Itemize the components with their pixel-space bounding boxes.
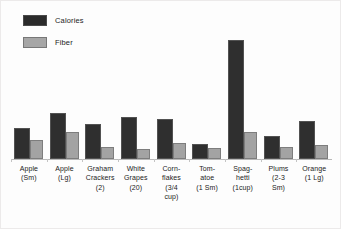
bar-fiber xyxy=(101,147,114,159)
x-axis-label: Apple(Lg) xyxy=(47,164,83,183)
legend-label-calories: Calories xyxy=(55,17,84,25)
x-axis-label-line: (1cup) xyxy=(225,183,261,192)
x-axis-label-line: (2) xyxy=(82,183,118,192)
x-axis-label-line: (2-3 xyxy=(261,173,297,182)
bar-fiber xyxy=(208,148,221,159)
bar-group xyxy=(299,35,328,159)
x-axis-tick xyxy=(47,159,48,162)
x-axis-tick xyxy=(261,159,262,162)
x-axis-label-line: Orange xyxy=(296,164,332,173)
bar-group xyxy=(85,35,114,159)
x-axis-label-line: Spag- xyxy=(225,164,261,173)
x-axis-label: WhiteGrapes(20) xyxy=(118,164,154,192)
bar-calories xyxy=(299,121,315,159)
bar-fiber xyxy=(244,132,257,159)
x-axis-label-line: atoe xyxy=(189,173,225,182)
x-axis-label-line: Apple xyxy=(47,164,83,173)
x-axis-label-line: Graham xyxy=(82,164,118,173)
x-axis-label-line: flakes xyxy=(154,173,190,182)
bar-group xyxy=(121,35,150,159)
bar-calories xyxy=(50,113,66,159)
bar-fiber xyxy=(173,143,186,159)
bar-calories xyxy=(192,144,208,159)
x-axis-labels: Apple(Sm)Apple(Lg)GrahamCrackers(2)White… xyxy=(11,164,332,226)
x-axis-label: Apple(Sm) xyxy=(11,164,47,183)
bar-fiber xyxy=(30,140,43,159)
x-axis-label-line: Apple xyxy=(11,164,47,173)
bar-group xyxy=(228,35,257,159)
bar-group xyxy=(157,35,186,159)
x-axis-label: Spag-hetti(1cup) xyxy=(225,164,261,192)
x-axis-label-line: Crackers xyxy=(82,173,118,182)
bar-calories xyxy=(157,119,173,159)
x-axis-tick xyxy=(296,159,297,162)
bar-fiber xyxy=(66,132,79,159)
bar-fiber xyxy=(137,149,150,159)
bar-calories xyxy=(85,124,101,159)
bar-group xyxy=(264,35,293,159)
legend-item-calories: Calories xyxy=(23,14,143,27)
legend-swatch-calories-icon xyxy=(23,15,47,26)
x-axis-label: Tom-atoe(1 Sm) xyxy=(189,164,225,192)
x-axis-label: Plums(2-3Sm) xyxy=(261,164,297,192)
plot-area xyxy=(11,35,332,160)
x-axis-tick xyxy=(11,159,12,162)
x-axis-tick xyxy=(82,159,83,162)
bar-fiber xyxy=(280,147,293,159)
x-axis-label-line: Plums xyxy=(261,164,297,173)
x-axis-label-line: cup) xyxy=(154,192,190,201)
bar-chart: Calories Fiber Apple(Sm)Apple(Lg)GrahamC… xyxy=(0,0,341,229)
x-axis-label-line: (Lg) xyxy=(47,173,83,182)
x-axis-tick xyxy=(118,159,119,162)
x-axis-label: Orange(1 Lg) xyxy=(296,164,332,183)
x-axis-label-line: (Sm) xyxy=(11,173,47,182)
bar-calories xyxy=(228,40,244,159)
x-axis-label-line: (3/4 xyxy=(154,183,190,192)
x-axis-label-line: Grapes xyxy=(118,173,154,182)
bar-group xyxy=(50,35,79,159)
x-axis-baseline xyxy=(11,159,332,160)
x-axis-label: Corn-flakes(3/4cup) xyxy=(154,164,190,202)
x-axis-label-line: (1 Sm) xyxy=(189,183,225,192)
x-axis-label-line: White xyxy=(118,164,154,173)
x-axis-label: GrahamCrackers(2) xyxy=(82,164,118,192)
x-axis-tick xyxy=(154,159,155,162)
x-axis-label-line: Tom- xyxy=(189,164,225,173)
x-axis-label-line: hetti xyxy=(225,173,261,182)
x-axis-label-line: (20) xyxy=(118,183,154,192)
bar-calories xyxy=(264,136,280,159)
bar-group xyxy=(14,35,43,159)
x-axis-tick xyxy=(225,159,226,162)
x-axis-label-line: (1 Lg) xyxy=(296,173,332,182)
x-axis-label-line: Sm) xyxy=(261,183,297,192)
bar-calories xyxy=(121,117,137,159)
bar-fiber xyxy=(315,145,328,159)
x-axis-label-line: Corn- xyxy=(154,164,190,173)
bar-calories xyxy=(14,128,30,159)
bar-group xyxy=(192,35,221,159)
x-axis-tick xyxy=(189,159,190,162)
